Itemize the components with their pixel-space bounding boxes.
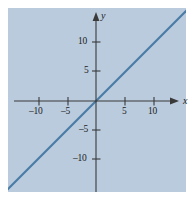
x-tick-label-neg10: –10 (29, 107, 43, 117)
y-tick-label-pos5: 5 (84, 66, 89, 76)
x-tick-label-neg5: –5 (61, 107, 70, 117)
y-tick-label-neg10: –10 (73, 154, 87, 164)
y-axis-label: y (101, 11, 105, 21)
y-tick-label-pos10: 10 (78, 37, 87, 47)
linear-inequality-figure: –10 –5 5 10 10 5 –5 –10 x y (0, 0, 195, 200)
plot-canvas (0, 0, 195, 200)
x-tick-label-pos10: 10 (148, 107, 157, 117)
x-tick-label-pos5: 5 (122, 107, 127, 117)
y-tick-label-neg5: –5 (79, 125, 88, 135)
x-axis-label: x (183, 96, 187, 106)
